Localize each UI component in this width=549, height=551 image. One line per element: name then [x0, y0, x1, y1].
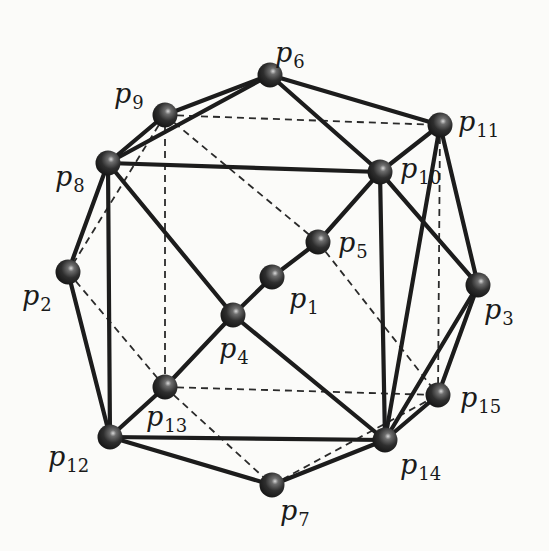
label-p4: p4: [219, 335, 249, 362]
diagram-canvas: p1p2p3p4p5p6p7p8p9p10p11p12p13p14p15: [0, 0, 549, 551]
hidden-edge-p13-p15: [165, 387, 438, 395]
label-letter: p: [114, 78, 131, 109]
label-p3: p3: [484, 296, 514, 323]
visible-edge-p4-p14: [233, 315, 385, 440]
label-subscript: 13: [164, 415, 187, 436]
label-subscript: 1: [307, 297, 318, 318]
vertex-p15: [426, 383, 451, 408]
label-letter: p: [289, 283, 306, 314]
visible-edge-p8-p10: [108, 163, 380, 172]
label-letter: p: [400, 449, 417, 480]
label-subscript: 9: [132, 92, 143, 113]
label-subscript: 14: [418, 463, 441, 484]
label-p9: p9: [114, 80, 144, 107]
label-letter: p: [219, 333, 236, 364]
visible-edge-p6-p9: [165, 75, 270, 115]
label-letter: p: [48, 441, 65, 472]
visible-edge-p2-p12: [68, 272, 110, 437]
label-p15: p15: [460, 384, 501, 411]
label-p12: p12: [48, 443, 89, 470]
label-p5: p5: [338, 229, 368, 256]
label-subscript: 6: [293, 51, 304, 72]
visible-edge-p10-p14: [380, 172, 385, 440]
label-subscript: 15: [478, 396, 501, 417]
visible-edge-p8-p4: [108, 163, 233, 315]
vertex-nodes: [56, 63, 491, 498]
label-subscript: 10: [418, 167, 441, 188]
visible-edge-p12-p7: [110, 437, 272, 485]
label-p2: p2: [22, 282, 52, 309]
label-subscript: 8: [73, 175, 84, 196]
vertex-p12: [98, 425, 123, 450]
label-letter: p: [55, 161, 72, 192]
visible-edge-p12-p14: [110, 437, 385, 440]
label-subscript: 12: [66, 455, 89, 476]
label-p11: p11: [458, 108, 499, 135]
vertex-p1: [260, 265, 285, 290]
label-letter: p: [146, 401, 163, 432]
label-p8: p8: [55, 163, 85, 190]
label-p7: p7: [280, 497, 310, 524]
label-p6: p6: [275, 39, 305, 66]
label-letter: p: [460, 382, 477, 413]
visible-edge-p8-p12: [108, 163, 110, 437]
label-p1: p1: [289, 285, 319, 312]
vertex-p5: [306, 230, 331, 255]
hidden-edge-p9-p11: [165, 115, 440, 125]
label-subscript: 11: [476, 120, 499, 141]
vertex-p4: [221, 303, 246, 328]
label-subscript: 4: [237, 347, 248, 368]
vertex-p13: [153, 375, 178, 400]
vertex-p10: [368, 160, 393, 185]
label-letter: p: [338, 227, 355, 258]
label-letter: p: [484, 294, 501, 325]
vertex-p9: [153, 103, 178, 128]
label-subscript: 7: [298, 509, 309, 530]
label-subscript: 2: [40, 294, 51, 315]
label-letter: p: [280, 495, 297, 526]
label-p14: p14: [400, 451, 441, 478]
label-letter: p: [22, 280, 39, 311]
visible-edge-p7-p14: [272, 440, 385, 485]
vertex-p2: [56, 260, 81, 285]
hidden-edge-p5-p15: [318, 242, 438, 395]
label-subscript: 3: [502, 308, 513, 329]
label-letter: p: [458, 106, 475, 137]
label-p10: p10: [400, 155, 441, 182]
vertex-p11: [428, 113, 453, 138]
vertex-p14: [373, 428, 398, 453]
label-letter: p: [275, 37, 292, 68]
hidden-edge-p9-p5: [165, 115, 318, 242]
vertex-p8: [96, 151, 121, 176]
label-letter: p: [400, 153, 417, 184]
vertex-p7: [260, 473, 285, 498]
label-p13: p13: [146, 403, 187, 430]
label-subscript: 5: [356, 241, 367, 262]
